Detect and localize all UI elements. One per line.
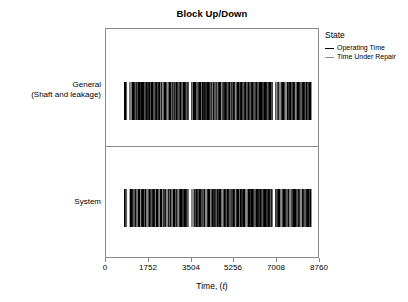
legend-item-time-under-repair[interactable]: Time Under Repair — [325, 53, 405, 61]
legend-line-icon-repair — [325, 57, 334, 58]
x-tick-mark — [319, 258, 320, 262]
x-tick-label: 8760 — [310, 263, 328, 272]
y-axis-label-general-line2: (Shaft and leakage) — [8, 90, 101, 100]
x-axis-ticks: 017523504525670088760 — [105, 258, 319, 263]
timeline-bars — [105, 147, 319, 257]
y-axis-label-general: General (Shaft and leakage) — [8, 80, 101, 100]
y-axis-label-general-line1: General — [8, 80, 101, 90]
legend-label-operating-time: Operating Time — [337, 44, 385, 52]
x-tick-label: 1752 — [139, 263, 157, 272]
band-system-timeline — [105, 147, 319, 257]
panel-system — [105, 147, 319, 257]
y-axis-label-system-line1: System — [8, 197, 101, 207]
x-tick-label: 3504 — [182, 263, 200, 272]
x-tick-label: 7008 — [267, 263, 285, 272]
x-tick-label: 5256 — [224, 263, 242, 272]
x-tick-mark — [148, 258, 149, 262]
x-tick-mark — [276, 258, 277, 262]
band-general-timeline — [105, 29, 319, 146]
legend-label-time-under-repair: Time Under Repair — [337, 53, 396, 61]
x-tick-mark — [191, 258, 192, 262]
panel-general — [105, 29, 319, 146]
x-axis-title-end: ) — [225, 281, 228, 291]
x-tick-mark — [233, 258, 234, 262]
x-tick-mark — [105, 258, 106, 262]
timeline-bars — [105, 29, 319, 146]
legend-line-icon-operating — [325, 48, 334, 49]
x-axis-title: Time, (t) — [105, 281, 319, 291]
x-tick-label: 0 — [103, 263, 107, 272]
chart-title: Block Up/Down — [105, 8, 319, 19]
x-axis-title-main: Time, ( — [196, 281, 222, 291]
legend: State Operating Time Time Under Repair — [325, 30, 405, 62]
block-up-down-chart: Block Up/Down General (Shaft and leakage… — [0, 0, 408, 302]
y-axis-label-system: System — [8, 197, 101, 207]
legend-title: State — [325, 30, 405, 40]
legend-item-operating-time[interactable]: Operating Time — [325, 44, 405, 52]
